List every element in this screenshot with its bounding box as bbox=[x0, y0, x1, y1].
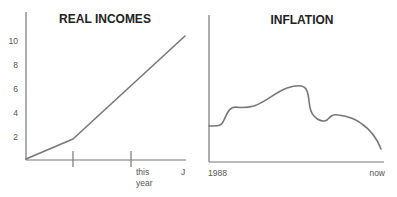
real-incomes-chart: REAL INCOMES 10 8 6 4 2 this year J bbox=[9, 12, 186, 188]
y-tick-label: 4 bbox=[13, 108, 18, 118]
charts-canvas: REAL INCOMES 10 8 6 4 2 this year J INFL… bbox=[0, 0, 397, 197]
x-tick-label-this: this bbox=[136, 167, 149, 177]
x-tick-label-start: 1988 bbox=[208, 168, 227, 178]
inflation-title: INFLATION bbox=[270, 13, 333, 27]
x-tick-label-year: year bbox=[136, 178, 153, 188]
y-tick-label: 10 bbox=[9, 36, 19, 46]
x-tick-label-end: now bbox=[369, 168, 385, 178]
real-incomes-title: REAL INCOMES bbox=[59, 12, 151, 26]
x-tick-label-end: J bbox=[181, 167, 185, 177]
y-tick-label: 8 bbox=[13, 60, 18, 70]
inflation-curve bbox=[209, 86, 381, 150]
inflation-chart: INFLATION 1988 now bbox=[208, 13, 386, 178]
real-incomes-line bbox=[26, 36, 185, 159]
y-tick-label: 6 bbox=[13, 84, 18, 94]
y-tick-label: 2 bbox=[13, 132, 18, 142]
